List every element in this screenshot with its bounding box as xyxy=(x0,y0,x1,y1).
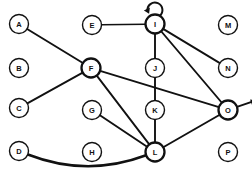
graph-node-e[interactable]: E xyxy=(83,16,102,35)
graph-node-o[interactable]: O xyxy=(219,101,238,120)
edge-a-f xyxy=(27,29,83,63)
edge-f-l xyxy=(97,76,149,145)
graph-node-i[interactable]: I xyxy=(146,15,165,34)
node-label-j: J xyxy=(153,64,157,73)
graph-node-c[interactable]: C xyxy=(10,99,29,118)
node-label-c: C xyxy=(16,104,22,113)
graph-node-l[interactable]: L xyxy=(146,143,165,162)
node-label-f: F xyxy=(89,64,94,73)
node-label-m: M xyxy=(225,21,231,30)
node-label-p: P xyxy=(225,148,230,157)
graph-canvas: ABCDEFGHIJKLMNOP xyxy=(0,0,252,174)
graph-node-b[interactable]: B xyxy=(10,59,29,78)
graph-node-h[interactable]: H xyxy=(83,143,102,162)
graph-node-n[interactable]: N xyxy=(219,59,238,78)
graph-node-g[interactable]: G xyxy=(83,101,102,120)
graph-node-p[interactable]: P xyxy=(219,143,238,162)
edge-e-i xyxy=(101,24,145,25)
node-label-b: B xyxy=(16,64,22,73)
node-label-n: N xyxy=(225,64,230,73)
graph-node-j[interactable]: J xyxy=(146,59,165,78)
node-label-o: O xyxy=(225,106,231,115)
node-layer: ABCDEFGHIJKLMNOP xyxy=(10,15,238,162)
graph-node-m[interactable]: M xyxy=(219,16,238,35)
graph-node-k[interactable]: K xyxy=(146,101,165,120)
edge-l-o xyxy=(163,115,220,148)
graph-diagram: ABCDEFGHIJKLMNOP xyxy=(0,0,252,174)
graph-node-f[interactable]: F xyxy=(82,59,101,78)
node-label-g: G xyxy=(89,106,95,115)
node-label-i: I xyxy=(154,20,156,29)
node-label-k: K xyxy=(152,106,158,115)
graph-node-d[interactable]: D xyxy=(10,142,29,161)
node-label-h: H xyxy=(89,148,94,157)
graph-node-a[interactable]: A xyxy=(10,15,29,34)
edge-c-f xyxy=(27,73,82,104)
node-label-a: A xyxy=(16,20,22,29)
node-label-d: D xyxy=(16,147,22,156)
out-arrow-o xyxy=(237,101,252,107)
node-label-l: L xyxy=(153,148,158,157)
node-label-e: E xyxy=(89,21,94,30)
edge-i-n xyxy=(163,29,220,63)
